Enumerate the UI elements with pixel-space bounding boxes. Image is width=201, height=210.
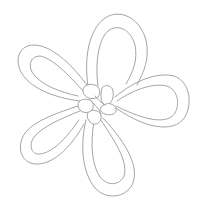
- petal-lower-left-outer: [20, 106, 84, 164]
- petal-right-inner: [116, 85, 178, 120]
- petal-bottom-inner: [92, 119, 125, 184]
- petal-lower-left-inner: [31, 111, 80, 154]
- petal-top-outer: [87, 14, 148, 86]
- petal-upper-left-inner: [30, 56, 84, 96]
- petal-top-inner: [97, 28, 136, 86]
- center-knot: [78, 84, 116, 124]
- flower-line-drawing: [0, 0, 201, 210]
- petal-upper-left-outer: [18, 45, 87, 101]
- petal-bottom-outer: [83, 118, 135, 196]
